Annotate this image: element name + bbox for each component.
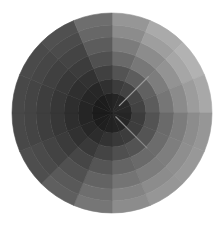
radial-sector-wheel bbox=[0, 0, 221, 229]
wheel-sectors bbox=[12, 13, 212, 213]
